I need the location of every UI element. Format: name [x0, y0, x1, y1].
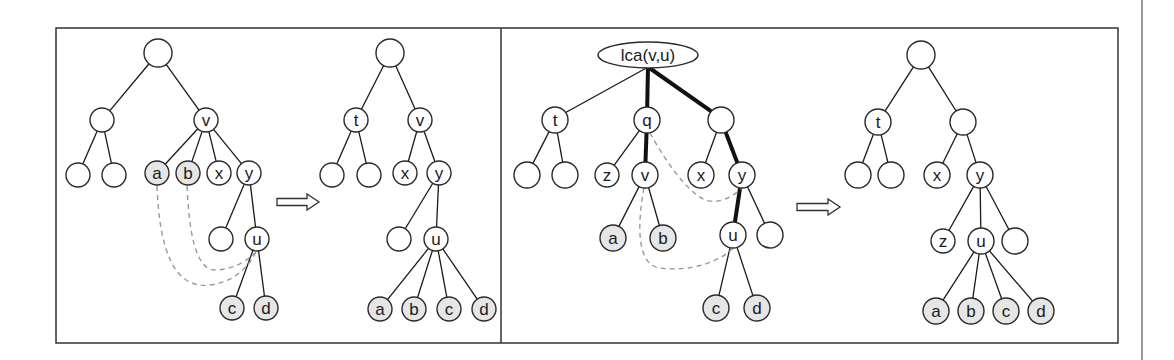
tree-edge [566, 68, 647, 113]
tree-edge [614, 131, 639, 166]
tree-node-z: z [595, 163, 619, 187]
tree-transformation-diagram: vabxyucdtvxyuabcdlca(v,u)tqzvxyabucdtxyz… [0, 0, 1174, 360]
tree-node-u: u [245, 227, 269, 251]
node-shape [102, 163, 126, 187]
node-label: z [939, 232, 948, 251]
node-label: y [738, 166, 747, 185]
tree-node-c: c [437, 297, 461, 321]
node-label: q [642, 111, 651, 130]
tree-node [907, 41, 935, 69]
tree-node-u: u [424, 227, 448, 251]
node-label: x [697, 166, 706, 185]
tree-edge [533, 132, 549, 164]
node-label: d [1036, 302, 1045, 321]
tree-node-x: x [207, 161, 231, 185]
tree-node [376, 39, 404, 67]
node-label: u [252, 230, 261, 249]
node-label: y [245, 164, 254, 183]
node-label: x [215, 164, 224, 183]
node-label: c [228, 299, 237, 318]
node-label: u [431, 230, 440, 249]
tree-edge [973, 254, 979, 298]
tree-node-z: z [931, 229, 955, 253]
tree-edge [443, 249, 477, 299]
dashed-connection [157, 186, 256, 285]
tree-edge [989, 251, 1032, 301]
tree-node-a: a [145, 161, 169, 185]
tree-node [878, 162, 904, 188]
tree-node-y: y [729, 162, 755, 188]
tree-node-q: q [634, 107, 660, 133]
tree-edge [359, 132, 366, 164]
tree-edge [986, 186, 1009, 229]
node-label: t [354, 111, 359, 130]
node-label: c [712, 299, 721, 318]
nodes: txyzuabcd [845, 41, 1054, 324]
tree-edge [747, 187, 764, 223]
tree-node-x: x [393, 161, 417, 185]
tree-edge [166, 64, 199, 110]
tree-node-d: d [254, 296, 278, 320]
node-label: b [183, 164, 192, 183]
tree-edge [967, 134, 976, 162]
tree-node-c: c [703, 295, 729, 321]
node-label: y [976, 166, 985, 185]
tree-node-v: v [194, 108, 218, 132]
tree-edge [737, 247, 753, 295]
tree-edge [226, 184, 245, 228]
path-edge-bold [726, 132, 738, 163]
node-shape [66, 163, 90, 187]
panel-2-after: tvxyuabcd [320, 39, 496, 321]
tree-edge [619, 187, 639, 227]
tree-node-b: b [402, 297, 426, 321]
node-shape [950, 109, 976, 135]
tree-edge [985, 253, 1001, 299]
tree-node-c: c [993, 298, 1019, 324]
node-label: c [1002, 302, 1011, 321]
node-shape [845, 162, 871, 188]
panel-3-before: lca(v,u)tqzvxyabucd [514, 42, 783, 321]
node-shape [708, 107, 734, 133]
tree-edge [361, 65, 383, 109]
tree-edge [209, 132, 216, 162]
tree-edge [557, 133, 562, 162]
tree-edge [949, 186, 974, 230]
tree-node [144, 39, 172, 67]
node-label: b [966, 302, 975, 321]
path-edge-bold [645, 133, 646, 162]
node-label: t [876, 113, 881, 132]
tree-edge [192, 131, 202, 161]
node-label: b [409, 300, 418, 319]
node-label: u [728, 226, 737, 245]
tree-node-y: y [237, 161, 261, 185]
tree-node-d: d [744, 295, 770, 321]
node-shape [552, 162, 578, 188]
node-shape [1002, 228, 1028, 254]
node-label: c [445, 300, 454, 319]
tree-edge [105, 132, 112, 164]
node-label: z [603, 166, 612, 185]
tree-node [209, 227, 233, 251]
node-shape [907, 41, 935, 69]
tree-edge [259, 251, 265, 296]
node-shape [144, 39, 172, 67]
tree-node-y: y [427, 161, 451, 185]
node-shape [376, 39, 404, 67]
node-label: d [479, 300, 488, 319]
tree-edge [387, 248, 428, 299]
tree-edge [649, 187, 660, 225]
node-label: d [261, 299, 270, 318]
panel-4-after: txyzuabcd [845, 41, 1054, 324]
tree-node-u: u [720, 222, 746, 248]
tree-node-d: d [1028, 298, 1054, 324]
tree-node-t: t [865, 109, 891, 135]
tree-node [1002, 228, 1028, 254]
tree-edge [881, 135, 888, 163]
node-shape [357, 163, 381, 187]
node-label: v [416, 111, 425, 130]
tree-edge [980, 188, 981, 228]
tree-node-y: y [967, 162, 993, 188]
tree-node [757, 222, 783, 248]
tree-edge [110, 64, 149, 111]
tree-node [514, 162, 540, 188]
